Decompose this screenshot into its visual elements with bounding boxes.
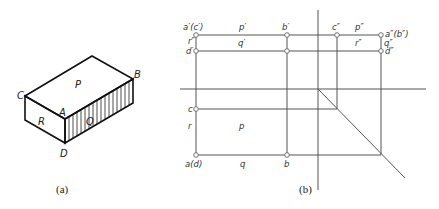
label-r2: r″ xyxy=(355,38,362,48)
label-b1: b′ xyxy=(282,22,289,32)
45-degree-miter-line xyxy=(318,89,405,178)
label-p: p xyxy=(238,121,244,131)
point-b1-lower xyxy=(285,49,290,54)
figure-canvas: C B A D P R Q (a) a′(c′) r xyxy=(0,0,439,209)
point-c xyxy=(194,107,199,112)
label-c2: c″ xyxy=(332,22,341,32)
label-d2: d″ xyxy=(385,46,394,56)
vertex-label-a: A xyxy=(58,107,66,118)
label-p2: p″ xyxy=(354,22,364,32)
point-d1 xyxy=(194,49,199,54)
projection-figure: C B A D P R Q (a) a′(c′) r xyxy=(0,0,439,209)
caption-a: (a) xyxy=(56,183,69,196)
point-b1 xyxy=(285,33,290,38)
face-r-left xyxy=(25,96,65,143)
point-b xyxy=(285,153,290,158)
face-label-q: Q xyxy=(86,116,94,127)
label-d1: d′ xyxy=(186,46,193,56)
face-label-p: P xyxy=(75,79,82,90)
point-d2 xyxy=(379,49,384,54)
label-c: c xyxy=(188,104,193,114)
vertex-label-c: C xyxy=(17,90,24,101)
label-a1-c1: a′(c′) xyxy=(183,22,203,32)
label-b: b xyxy=(284,159,289,169)
point-a-d xyxy=(194,153,199,158)
point-c2 xyxy=(335,33,340,38)
point-a2-b2 xyxy=(379,33,384,38)
isometric-block: C B A D P R Q (a) xyxy=(17,56,141,196)
caption-b: (b) xyxy=(299,183,312,196)
label-p1: p′ xyxy=(238,22,246,32)
label-a-d: a(d) xyxy=(185,159,202,169)
label-q: q xyxy=(240,159,246,169)
vertex-label-b: B xyxy=(134,69,141,80)
label-r2-front: r″ xyxy=(188,36,195,46)
label-r: r xyxy=(188,121,192,131)
label-q1: q′ xyxy=(238,38,245,48)
vertex-label-d: D xyxy=(60,148,68,159)
orthographic-views: a′(c′) r″ d′ p′ q′ b′ c″ p″ r″ a″(b″) q″… xyxy=(180,10,426,196)
face-label-r: R xyxy=(38,116,45,127)
